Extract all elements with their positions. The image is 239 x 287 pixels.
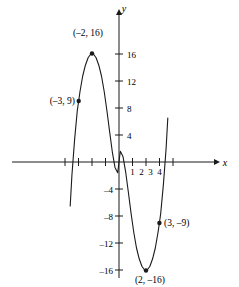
- y-tick-label-neg-4: –4: [103, 185, 114, 195]
- annotation-left-point: (–3, 9): [50, 96, 75, 107]
- y-tick-label-neg-16: –16: [99, 266, 114, 276]
- point-dot-left: [77, 99, 81, 103]
- x-tick-label-4: 4: [157, 167, 162, 177]
- point-dot-min: [144, 268, 148, 272]
- annotation-right-point: (3, –9): [164, 218, 189, 229]
- annotation-min-point: (2, –16): [135, 275, 165, 286]
- x-tick-label-1: 1: [130, 167, 135, 177]
- annotation-max-point: (–2, 16): [73, 28, 103, 39]
- x-tick-label-3: 3: [148, 167, 153, 177]
- point-dot-right: [157, 221, 161, 225]
- y-tick-label-4: 4: [127, 131, 132, 141]
- graph-figure: y x 1 2 3 4 4 8 12 16 –4 –8 –12 –16 (–2,…: [0, 0, 239, 287]
- x-axis-label: x: [222, 157, 228, 168]
- coordinate-plane: y x 1 2 3 4 4 8 12 16 –4 –8 –12 –16 (–2,…: [0, 0, 239, 287]
- point-dot-max: [90, 51, 94, 55]
- y-tick-label-neg-8: –8: [103, 212, 114, 222]
- y-tick-label-12: 12: [127, 77, 136, 87]
- y-tick-label-16: 16: [127, 50, 137, 60]
- y-tick-label-8: 8: [127, 104, 132, 114]
- x-tick-label-2: 2: [139, 167, 144, 177]
- y-axis-label: y: [121, 3, 127, 14]
- y-tick-label-neg-12: –12: [99, 239, 114, 249]
